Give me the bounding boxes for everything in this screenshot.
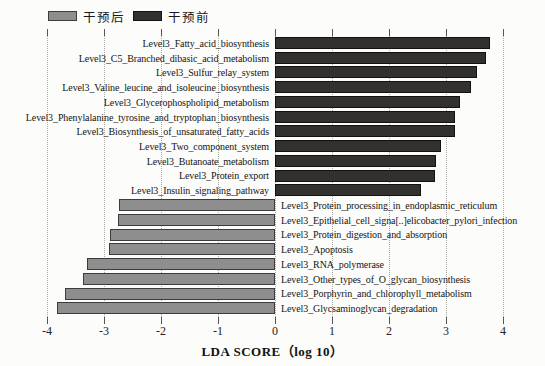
- bar-label: Level3_Two_component_system: [0, 140, 269, 153]
- bar-label: Level3_Protein_export: [0, 169, 269, 182]
- tick-label: 2: [376, 324, 402, 339]
- bar: [275, 96, 460, 108]
- bar: [119, 199, 275, 211]
- tick-mark: [161, 29, 162, 36]
- tick-label: -2: [148, 324, 174, 339]
- tick-mark: [275, 317, 276, 324]
- tick-label: 4: [490, 324, 516, 339]
- tick-mark: [389, 29, 390, 36]
- tick-mark: [218, 29, 219, 36]
- bar-label: Level3_Other_types_of_O_glycan_biosynthe…: [281, 273, 470, 286]
- bar: [275, 184, 421, 196]
- bar-label: Level3_Valine_leucine_and_isoleucine_bio…: [0, 81, 269, 94]
- plot-area: -4-3-2-101234 Level3_Fatty_acid_biosynth…: [0, 0, 545, 366]
- bar-label: Level3_Biosynthesis_of_unsaturated_fatty…: [0, 125, 269, 138]
- bar: [118, 214, 275, 226]
- bar: [275, 52, 486, 64]
- bar: [275, 155, 436, 167]
- tick-mark: [446, 29, 447, 36]
- bar: [65, 288, 275, 300]
- bar: [275, 66, 477, 78]
- tick-mark: [503, 29, 504, 36]
- bar-label: Level3_Protein_processing_in_endoplasmic…: [281, 199, 497, 212]
- bar: [275, 140, 441, 152]
- tick-mark: [218, 317, 219, 324]
- x-axis-title: LDA SCORE（log 10）: [0, 341, 545, 360]
- tick-mark: [389, 317, 390, 324]
- bar: [275, 37, 490, 49]
- bar-label: Level3_Apoptosis: [281, 243, 353, 256]
- tick-mark: [332, 29, 333, 36]
- bar: [110, 229, 275, 241]
- bar-label: Level3_Epithelial_cell_signa[..]elicobac…: [281, 214, 517, 227]
- tick-mark: [503, 317, 504, 324]
- bar-label: Level3_RNA_polymerase: [281, 258, 384, 271]
- bar-label: Level3_Glycerophospholipid_metabolism: [0, 96, 269, 109]
- tick-mark: [47, 29, 48, 36]
- tick-mark: [275, 29, 276, 36]
- bar-label: Level3_Sulfur_relay_system: [0, 66, 269, 79]
- bar: [87, 258, 275, 270]
- tick-mark: [446, 317, 447, 324]
- gridline: [503, 29, 504, 317]
- tick-mark: [104, 29, 105, 36]
- bar-label: Level3_Porphyrin_and_chlorophyll_metabol…: [281, 287, 472, 300]
- tick-label: -1: [205, 324, 231, 339]
- tick-mark: [161, 317, 162, 324]
- bar: [83, 273, 275, 285]
- bar: [275, 125, 455, 137]
- bar: [57, 302, 275, 314]
- bar-label: Level3_Butanoate_metabolism: [0, 155, 269, 168]
- bar: [275, 170, 435, 182]
- tick-label: 1: [319, 324, 345, 339]
- bar: [275, 81, 471, 93]
- bar: [275, 111, 455, 123]
- tick-label: -4: [34, 324, 60, 339]
- bar-label: Level3_Glycsaminoglycan_degradation: [281, 302, 437, 315]
- lefse-lda-score-chart: 干预后 干预前 -4-3-2-101234 Level3_Fatty_acid_…: [0, 0, 545, 366]
- bar-label: Level3_Protein_digestion_and_absorption: [281, 228, 447, 241]
- bar-label: Level3_Insulin_signaling_pathway: [0, 184, 269, 197]
- bar: [109, 243, 275, 255]
- tick-label: 0: [262, 324, 288, 339]
- bar-label: Level3_Fatty_acid_biosynthesis: [0, 37, 269, 50]
- tick-mark: [332, 317, 333, 324]
- tick-label: -3: [91, 324, 117, 339]
- tick-mark: [104, 317, 105, 324]
- tick-mark: [47, 317, 48, 324]
- tick-label: 3: [433, 324, 459, 339]
- bar-label: Level3_C5_Branched_dibasic_acid_metaboli…: [0, 52, 269, 65]
- bar-label: Level3_Phenylalanine_tyrosine_and_trypto…: [0, 111, 269, 124]
